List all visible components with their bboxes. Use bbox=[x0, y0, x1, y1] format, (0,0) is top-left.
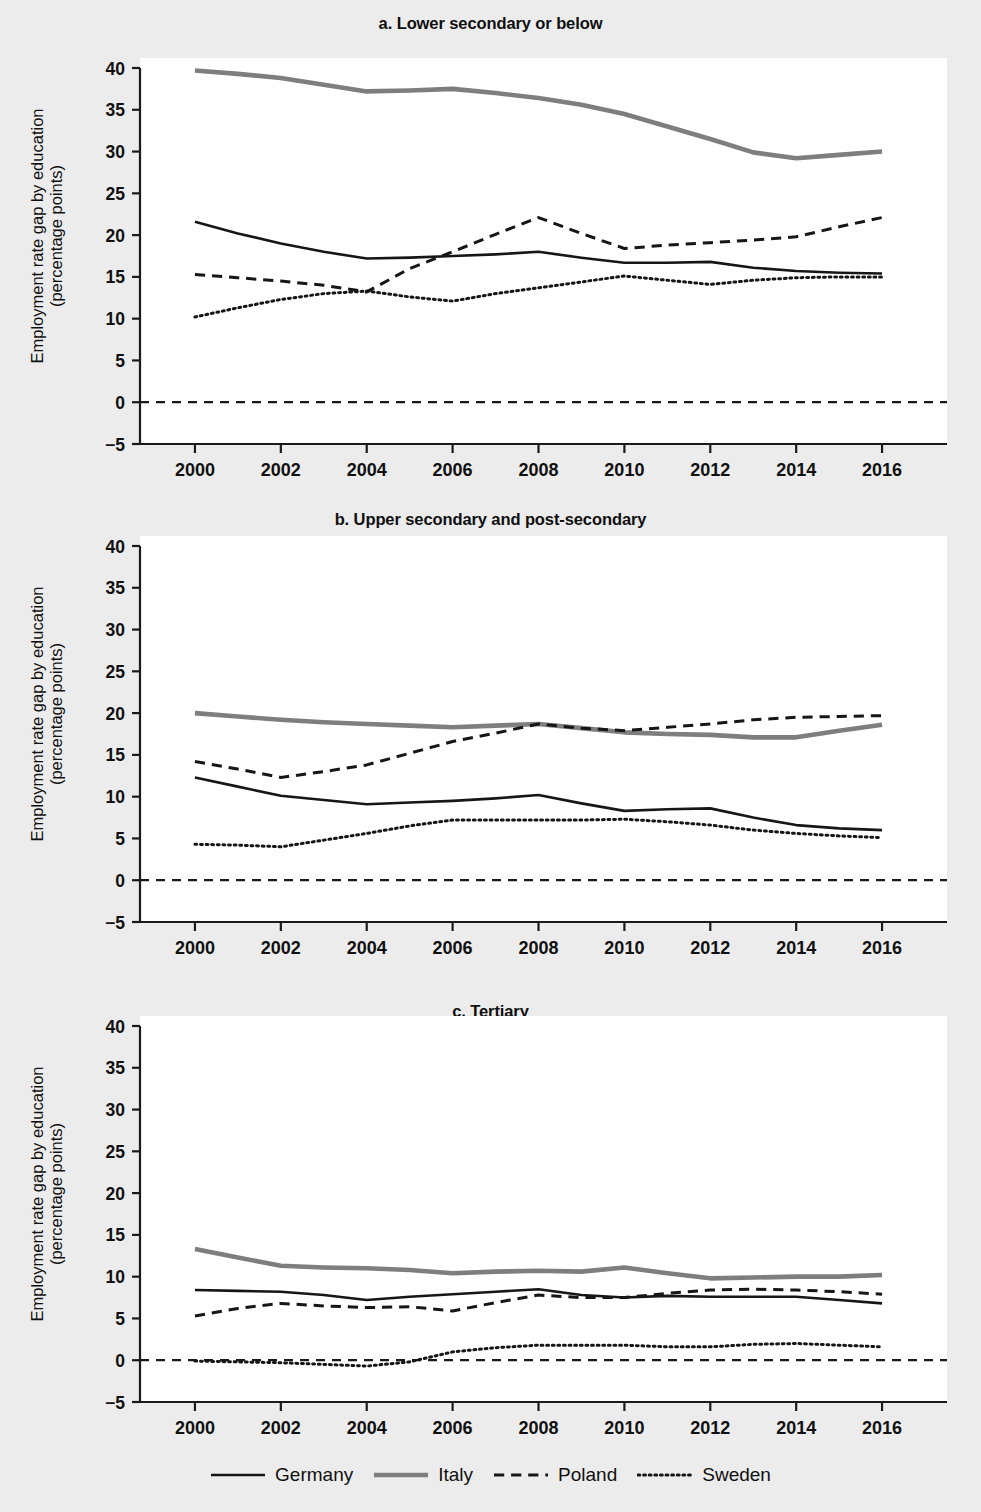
plot-area-a: −505101520253035402000200220042006200820… bbox=[0, 0, 981, 496]
x-tick-label: 2002 bbox=[261, 460, 301, 480]
x-tick-label: 2006 bbox=[433, 938, 473, 958]
y-tick-label: −5 bbox=[105, 1393, 125, 1413]
x-tick-label: 2000 bbox=[175, 938, 215, 958]
panel-b-plot: −505101520253035402000200220042006200820… bbox=[0, 496, 981, 988]
x-tick-label: 2000 bbox=[175, 1418, 215, 1438]
plot-area-c: −505101520253035402000200220042006200820… bbox=[0, 988, 981, 1446]
x-tick-label: 2002 bbox=[261, 938, 301, 958]
y-tick-label: 30 bbox=[106, 1100, 126, 1120]
y-tick-label: 15 bbox=[106, 1225, 126, 1245]
y-tick-label: 20 bbox=[106, 704, 126, 724]
y-tick-label: 0 bbox=[115, 393, 125, 413]
x-tick-label: 2008 bbox=[518, 460, 558, 480]
x-tick-label: 2012 bbox=[690, 460, 730, 480]
y-tick-label: 20 bbox=[106, 226, 126, 246]
x-tick-label: 2004 bbox=[347, 1418, 387, 1438]
y-tick-label: 40 bbox=[106, 1017, 126, 1037]
y-tick-label: 10 bbox=[106, 787, 126, 807]
y-tick-label: 30 bbox=[106, 620, 126, 640]
y-axis-label: Employment rate gap by education(percent… bbox=[28, 36, 68, 436]
panel-a-plot: −505101520253035402000200220042006200820… bbox=[0, 0, 981, 496]
x-tick-label: 2008 bbox=[518, 1418, 558, 1438]
y-tick-label: 25 bbox=[106, 1142, 126, 1162]
y-tick-label: 0 bbox=[115, 1351, 125, 1371]
y-axis-label: Employment rate gap by education(percent… bbox=[28, 514, 68, 914]
legend-key-sweden-icon bbox=[637, 1468, 693, 1482]
x-tick-label: 2016 bbox=[862, 460, 902, 480]
y-tick-label: 15 bbox=[106, 745, 126, 765]
y-tick-label: −5 bbox=[105, 913, 125, 933]
legend-item-poland: Poland bbox=[493, 1464, 617, 1486]
x-tick-label: 2016 bbox=[862, 938, 902, 958]
legend-label: Sweden bbox=[702, 1464, 771, 1486]
legend-key-germany-icon bbox=[210, 1468, 266, 1482]
y-tick-label: 25 bbox=[106, 184, 126, 204]
y-tick-label: 35 bbox=[106, 578, 126, 598]
legend-key-poland-icon bbox=[493, 1468, 549, 1482]
chart-panel-b: b. Upper secondary and post-secondary −5… bbox=[0, 496, 981, 988]
x-tick-label: 2008 bbox=[518, 938, 558, 958]
legend-item-germany: Germany bbox=[210, 1464, 353, 1486]
y-axis-label-line2: (percentage points) bbox=[47, 36, 66, 436]
legend-label: Germany bbox=[275, 1464, 353, 1486]
y-tick-label: 20 bbox=[106, 1184, 126, 1204]
y-tick-label: 40 bbox=[106, 537, 126, 557]
y-tick-label: 0 bbox=[115, 871, 125, 891]
x-tick-label: 2016 bbox=[862, 1418, 902, 1438]
y-tick-label: 40 bbox=[106, 59, 126, 79]
y-tick-label: 5 bbox=[115, 829, 125, 849]
y-tick-label: 5 bbox=[115, 1309, 125, 1329]
x-tick-label: 2014 bbox=[776, 1418, 816, 1438]
y-axis-label-line2: (percentage points) bbox=[47, 514, 66, 914]
x-tick-label: 2012 bbox=[690, 1418, 730, 1438]
y-tick-label: 25 bbox=[106, 662, 126, 682]
plot-background bbox=[140, 536, 947, 922]
y-tick-label: 10 bbox=[106, 309, 126, 329]
y-tick-label: 35 bbox=[106, 100, 126, 120]
plot-background bbox=[140, 58, 947, 444]
chart-panel-a: a. Lower secondary or below −50510152025… bbox=[0, 0, 981, 496]
x-tick-label: 2002 bbox=[261, 1418, 301, 1438]
y-tick-label: 10 bbox=[106, 1267, 126, 1287]
y-axis-label: Employment rate gap by education(percent… bbox=[28, 994, 68, 1394]
y-axis-label-line2: (percentage points) bbox=[47, 994, 66, 1394]
chart-panel-c: c. Tertiary −505101520253035402000200220… bbox=[0, 988, 981, 1446]
x-tick-label: 2006 bbox=[433, 1418, 473, 1438]
x-tick-label: 2014 bbox=[776, 460, 816, 480]
x-tick-label: 2006 bbox=[433, 460, 473, 480]
plot-area-b: −505101520253035402000200220042006200820… bbox=[0, 496, 981, 988]
y-tick-label: −5 bbox=[105, 435, 125, 455]
y-tick-label: 15 bbox=[106, 267, 126, 287]
legend-item-italy: Italy bbox=[373, 1464, 473, 1486]
legend-label: Italy bbox=[438, 1464, 473, 1486]
y-tick-label: 30 bbox=[106, 142, 126, 162]
x-tick-label: 2010 bbox=[604, 1418, 644, 1438]
legend-label: Poland bbox=[558, 1464, 617, 1486]
x-tick-label: 2004 bbox=[347, 460, 387, 480]
y-tick-label: 5 bbox=[115, 351, 125, 371]
x-tick-label: 2010 bbox=[604, 460, 644, 480]
y-tick-label: 35 bbox=[106, 1058, 126, 1078]
y-axis-label-line1: Employment rate gap by education bbox=[28, 994, 47, 1394]
figure-employment-rate-gap-by-education: a. Lower secondary or below −50510152025… bbox=[0, 0, 981, 1512]
y-axis-label-line1: Employment rate gap by education bbox=[28, 514, 47, 914]
x-tick-label: 2012 bbox=[690, 938, 730, 958]
legend-item-sweden: Sweden bbox=[637, 1464, 771, 1486]
legend-key-italy-icon bbox=[373, 1468, 429, 1482]
y-axis-label-line1: Employment rate gap by education bbox=[28, 36, 47, 436]
chart-legend: GermanyItalyPolandSweden bbox=[0, 1452, 981, 1498]
x-tick-label: 2010 bbox=[604, 938, 644, 958]
x-tick-label: 2004 bbox=[347, 938, 387, 958]
x-tick-label: 2000 bbox=[175, 460, 215, 480]
x-tick-label: 2014 bbox=[776, 938, 816, 958]
panel-c-plot: −505101520253035402000200220042006200820… bbox=[0, 988, 981, 1446]
